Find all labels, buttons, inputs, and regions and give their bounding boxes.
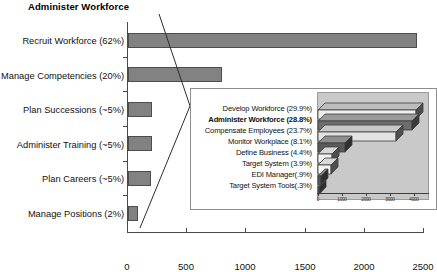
x-tick-label-1: 500 (178, 261, 194, 272)
y-label-plan-careers: Plan Careers (~5%) (0, 174, 124, 184)
x-tick-5 (423, 228, 424, 233)
inset-x-tick-4 (414, 193, 415, 196)
y-minor-tick-4 (123, 195, 127, 196)
inset-x-tick-label-0: 0 (317, 197, 319, 202)
x-tick-label-2: 1000 (234, 261, 255, 272)
inset-label-target-system-tools: Target System Tools(.3%) (229, 181, 312, 190)
inset-label-monitor-workplace: Monitor Workplace (8.1%) (228, 137, 312, 146)
inset-label-develop-workforce: Develop Workforce (29.9%) (223, 104, 312, 113)
bar-manage-competencies[interactable] (128, 67, 222, 82)
bar-administer-training[interactable] (128, 136, 152, 151)
inset-x-tick-label-3: 3000 (385, 197, 394, 202)
x-tick-label-3: 1500 (294, 261, 315, 272)
y-minor-tick-3 (123, 161, 127, 162)
y-label-administer-training: Administer Training (~5%) (0, 140, 124, 150)
bar-manage-positions[interactable] (128, 206, 138, 221)
x-tick-3 (305, 228, 306, 233)
inset-x-tick-label-1: 1000 (337, 197, 346, 202)
x-tick-2 (245, 228, 246, 233)
y-label-plan-successions: Plan Successions (~5%) (0, 105, 124, 115)
bar-plan-careers[interactable] (128, 171, 151, 186)
inset-x-tick-label-4: 4000 (409, 197, 418, 202)
inset-chart[interactable]: Develop Workforce (29.9%) Administer Wor… (190, 88, 437, 210)
inset-x-axis-line (317, 193, 429, 194)
x-tick-0 (127, 228, 128, 233)
x-tick-1 (186, 228, 187, 233)
x-tick-label-4: 2000 (353, 261, 374, 272)
x-tick-4 (364, 228, 365, 233)
x-axis-line (127, 232, 424, 233)
inset-label-target-system: Target System (3.9%) (242, 159, 312, 168)
inset-label-compensate-employees: Compensate Employees (23.7%) (205, 126, 312, 135)
x-tick-label-5: 2500 (412, 261, 433, 272)
y-label-manage-competencies: Manage Competencies (20%) (0, 71, 124, 81)
y-minor-tick-1 (123, 91, 127, 92)
y-minor-tick-2 (123, 126, 127, 127)
inset-x-tick-3 (390, 193, 391, 196)
bar-plan-successions[interactable] (128, 102, 152, 117)
page-title: Administer Workforce (28, 1, 129, 12)
inset-x-tick-1 (342, 193, 343, 196)
y-axis-line (127, 22, 128, 233)
inset-label-administer-workforce: Administer Workforce (28.8%) (208, 115, 312, 124)
x-tick-label-0: 0 (124, 261, 129, 272)
inset-label-edi-manager: EDI Manager(.9%) (252, 170, 312, 179)
inset-x-tick-2 (366, 193, 367, 196)
y-minor-tick-0 (123, 57, 127, 58)
y-label-recruit-workforce: Recruit Workforce (62%) (0, 36, 124, 46)
inset-x-tick-0 (318, 193, 319, 196)
inset-x-tick-label-2: 2000 (361, 197, 370, 202)
y-label-manage-positions: Manage Positions (2%) (0, 209, 124, 219)
inset-label-define-business: Define Business (4.4%) (236, 148, 312, 157)
bar-recruit-workforce[interactable] (128, 33, 417, 48)
